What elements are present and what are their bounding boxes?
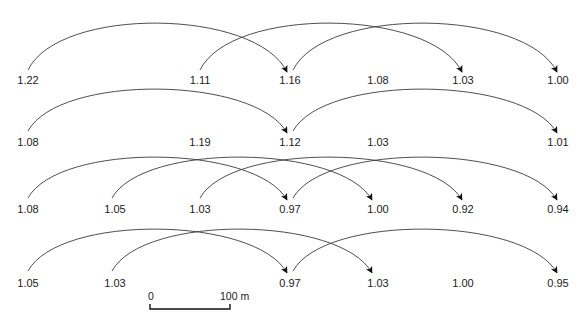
node-value-label: 1.08 [17, 136, 38, 148]
node-value-label: 1.03 [452, 74, 473, 86]
node-value-label: 1.08 [17, 203, 38, 215]
flow-arc [293, 89, 557, 133]
node-value-label: 0.97 [279, 277, 300, 289]
node-value-label: 0.95 [547, 277, 568, 289]
node-value-label: 1.11 [190, 74, 211, 86]
flow-arc [293, 229, 557, 273]
scale-bar-end-label: 100 m [220, 290, 249, 302]
node-value-label: 1.12 [279, 136, 300, 148]
node-value-label: 1.05 [104, 203, 125, 215]
node-value-label: 1.01 [547, 136, 568, 148]
flow-arc [293, 157, 557, 200]
node-value-label: 1.00 [452, 277, 473, 289]
node-value-label: 1.00 [547, 74, 568, 86]
node-value-label: 1.00 [367, 203, 388, 215]
node-value-label: 0.94 [547, 203, 568, 215]
flow-arc [28, 89, 287, 133]
flow-arc [28, 23, 287, 72]
flow-arc [200, 157, 462, 200]
node-value-label: 1.19 [189, 136, 210, 148]
flow-arc [28, 229, 287, 273]
scale-bar [150, 304, 230, 309]
scale-bar-start-label: 0 [148, 290, 154, 302]
node-value-label: 1.05 [17, 277, 38, 289]
flow-arc [293, 23, 557, 72]
flow-arc [28, 157, 287, 200]
node-value-label: 1.08 [367, 74, 388, 86]
flow-arc [112, 157, 372, 200]
node-value-label: 0.97 [279, 203, 300, 215]
scale-bar-line [150, 304, 230, 309]
flow-arc [112, 229, 372, 273]
arc-group [28, 23, 557, 273]
node-value-label: 0.92 [452, 203, 473, 215]
flow-arc [200, 23, 462, 72]
node-value-label: 1.22 [17, 74, 38, 86]
node-value-label: 1.03 [189, 203, 210, 215]
node-value-label: 1.03 [367, 136, 388, 148]
node-value-label: 1.03 [367, 277, 388, 289]
arc-flow-diagram: 1.221.111.161.081.031.001.081.191.121.03… [0, 0, 584, 328]
node-value-label: 1.16 [279, 74, 300, 86]
node-value-label: 1.03 [104, 277, 125, 289]
